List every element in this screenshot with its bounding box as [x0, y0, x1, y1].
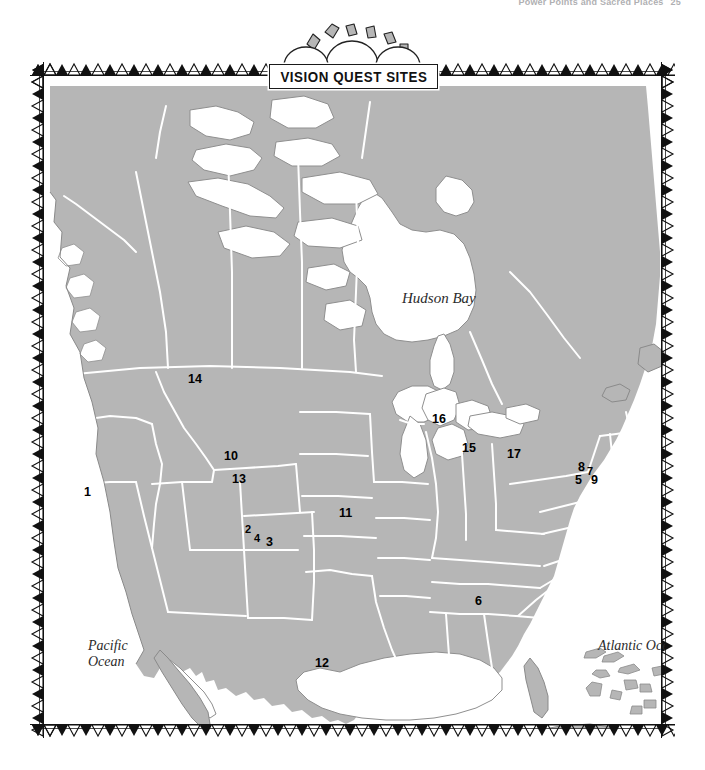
title-banner: VISION QUEST SITES — [250, 22, 455, 82]
site-marker-6[interactable]: 6 — [475, 595, 482, 608]
map-canvas — [40, 72, 666, 729]
label-hudson-bay: Hudson Bay — [402, 290, 476, 307]
site-marker-3[interactable]: 3 — [266, 536, 273, 549]
running-head: Power Points and Sacred Places25 — [519, 0, 681, 7]
map-frame: Hudson Bay Pacific Ocean Atlantic Ocean … — [30, 62, 675, 738]
border-band-bottom — [30, 724, 675, 738]
site-marker-14[interactable]: 14 — [188, 373, 202, 386]
site-marker-5[interactable]: 5 — [575, 474, 582, 487]
site-marker-12[interactable]: 12 — [315, 657, 329, 670]
site-marker-17[interactable]: 17 — [507, 448, 521, 461]
label-pacific-ocean: Pacific Ocean — [88, 638, 128, 670]
site-marker-2[interactable]: 2 — [245, 524, 251, 535]
running-head-title: Power Points and Sacred Places — [519, 0, 664, 7]
site-marker-16[interactable]: 16 — [432, 413, 446, 426]
site-marker-4[interactable]: 4 — [254, 533, 260, 544]
site-marker-15[interactable]: 15 — [462, 442, 476, 455]
site-marker-13[interactable]: 13 — [232, 473, 246, 486]
site-marker-8[interactable]: 8 — [578, 461, 585, 474]
map-frame-inner: Hudson Bay Pacific Ocean Atlantic Ocean … — [39, 71, 666, 729]
banner-title: VISION QUEST SITES — [280, 69, 427, 85]
sun-over-mountains-icon — [250, 22, 455, 70]
banner-plate: VISION QUEST SITES — [269, 64, 438, 89]
map-page: Power Points and Sacred Places25 — [0, 0, 705, 770]
page-folio: 25 — [671, 0, 681, 7]
label-atlantic-ocean: Atlantic Ocean — [598, 638, 666, 654]
site-marker-1[interactable]: 1 — [84, 486, 91, 499]
site-marker-10[interactable]: 10 — [224, 450, 238, 463]
border-band-left — [30, 62, 44, 738]
site-marker-9[interactable]: 9 — [591, 474, 598, 487]
site-marker-11[interactable]: 11 — [339, 507, 352, 520]
border-band-right — [661, 62, 675, 738]
